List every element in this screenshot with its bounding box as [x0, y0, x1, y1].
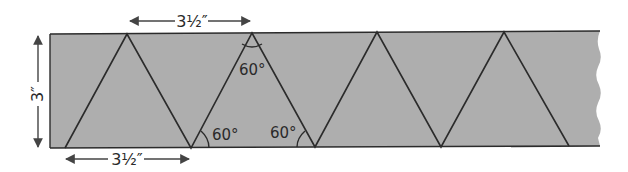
- bottom-dimension-label: 3½″: [111, 150, 143, 169]
- triangle-strip-diagram: 60° 60° 60° 3½″ 3½″ 3″: [0, 0, 628, 172]
- height-dimension-label: 3″: [28, 86, 47, 102]
- base-left-angle-label: 60°: [212, 126, 239, 144]
- top-dimension-label: 3½″: [176, 12, 208, 31]
- apex-angle-label: 60°: [239, 61, 266, 79]
- base-right-angle-label: 60°: [270, 124, 297, 142]
- strip-body: [50, 31, 601, 148]
